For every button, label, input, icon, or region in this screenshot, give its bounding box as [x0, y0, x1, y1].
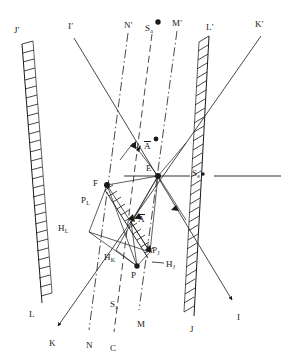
label-F-node: F: [93, 179, 98, 188]
label-J-bottom: J: [190, 325, 194, 334]
dot-A-upper: [154, 137, 159, 142]
label-H-K: HK: [104, 253, 115, 263]
label-K-bottom: K: [49, 339, 56, 348]
label-A-bar-upper: A: [144, 142, 151, 151]
label-I-bottom: I: [237, 313, 240, 322]
ray-K-prime-to-K: [58, 36, 261, 326]
dot-P: [134, 263, 139, 268]
diagram-svg: [0, 0, 285, 363]
label-J-prime: J′: [14, 26, 20, 35]
label-Sa-top: Sa: [145, 24, 153, 34]
upper-connectors: [120, 141, 136, 160]
diagram-canvas: J′ I′ N′ Sa M′ L′ K′ L K N C Sa M J I A …: [0, 0, 285, 363]
label-P-node: P: [131, 271, 136, 280]
label-P-J: PJ: [152, 246, 160, 256]
construction-lines-E: [107, 143, 186, 252]
label-I-prime: I′: [68, 22, 73, 31]
node-markers: [104, 19, 205, 268]
label-N-bottom: N: [86, 341, 93, 350]
dot-Sa-top: [155, 19, 160, 24]
label-M-prime: M′: [172, 19, 182, 28]
label-E-node: E: [146, 164, 152, 173]
label-Sa-bottom: Sa: [110, 300, 118, 310]
label-H-J: HJ: [166, 260, 175, 270]
label-H-L: HL: [58, 224, 69, 234]
band-J-prime-to-L: [22, 41, 52, 303]
label-M-bottom: M: [137, 320, 145, 329]
label-L-prime: L′: [206, 23, 214, 32]
dot-F: [104, 182, 110, 188]
label-L-bottom: L: [29, 310, 35, 319]
dot-E: [155, 173, 161, 179]
band-F-to-PJ-inner: [105, 185, 153, 258]
dot-Se: [201, 172, 204, 175]
label-K-prime: K′: [255, 20, 264, 29]
label-Se-node: Se: [192, 169, 200, 179]
label-C-bottom: C: [110, 344, 116, 353]
label-P-L: PL: [81, 196, 90, 206]
label-N-prime: N′: [124, 21, 133, 30]
label-A-bar-lower: A: [138, 215, 145, 224]
